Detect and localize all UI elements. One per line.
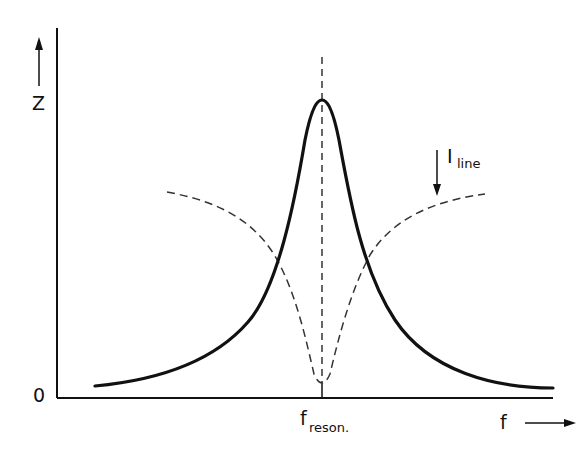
f-right-arrow-icon	[525, 419, 576, 427]
axes	[57, 28, 553, 398]
i-line-down-arrow-icon	[433, 150, 441, 196]
z-curve	[95, 100, 553, 388]
i-line-curve	[167, 192, 485, 383]
i-line-label-sub: line	[457, 156, 480, 171]
z-up-arrow-icon	[35, 37, 43, 86]
resonance-diagram	[0, 0, 585, 449]
y-axis-label: Z	[32, 92, 45, 114]
i-line-label-main: I	[447, 145, 453, 167]
origin-label: 0	[33, 384, 45, 406]
x-axis-label: f	[500, 411, 507, 433]
resonance-label-main: f	[300, 407, 307, 429]
resonance-label-sub: reson.	[309, 420, 349, 435]
